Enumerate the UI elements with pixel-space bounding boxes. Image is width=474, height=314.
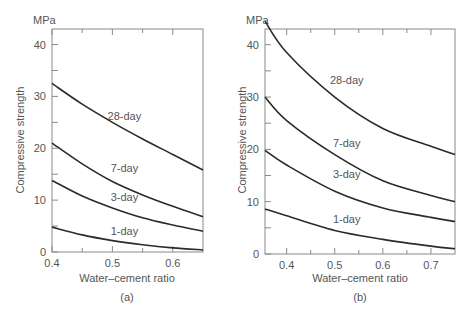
y-tick-label: 40	[34, 39, 46, 51]
y-tick-label: 10	[247, 196, 259, 208]
curve-28-day	[265, 21, 455, 154]
curve-7-day	[52, 143, 203, 217]
plot-frame	[52, 29, 203, 252]
panel-b: MPa Compressive strength Water–cement ra…	[236, 14, 455, 303]
y-tick-label: 40	[247, 39, 259, 51]
panel-a: MPa Compressive strength Water–cement ra…	[14, 14, 203, 303]
y-tick-label: 0	[253, 248, 259, 260]
y-axis-label: Compressive strength	[14, 87, 26, 194]
curve-label: 7-day	[333, 137, 361, 149]
y-tick-label: 30	[247, 91, 259, 103]
curve-3-day	[265, 150, 455, 221]
figure: MPa Compressive strength Water–cement ra…	[0, 0, 474, 314]
unit-label: MPa	[33, 14, 57, 26]
y-tick-label: 10	[34, 194, 46, 206]
panel-caption: (b)	[353, 291, 366, 303]
curve-label: 3-day	[111, 191, 139, 203]
panel-caption: (a)	[120, 291, 133, 303]
unit-label: MPa	[246, 14, 270, 26]
x-tick-label: 0.5	[327, 259, 342, 271]
curves: 28-day7-day3-day1-day	[265, 21, 455, 249]
curve-28-day	[52, 83, 203, 170]
x-tick-label: 0.6	[165, 257, 180, 269]
curve-label: 3-day	[333, 168, 361, 180]
curve-label: 28-day	[330, 74, 364, 86]
x-axis-label: Water–cement ratio	[79, 272, 175, 284]
x-axis-label: Water–cement ratio	[312, 272, 408, 284]
curve-label: 28-day	[108, 110, 142, 122]
curve-label: 7-day	[111, 162, 139, 174]
y-tick-label: 20	[34, 142, 46, 154]
x-tick-label: 0.4	[279, 259, 294, 271]
x-tick-label: 0.5	[105, 257, 120, 269]
axes: 0102030400.40.50.60.7	[247, 29, 455, 271]
curves: 28-day7-day3-day1-day	[52, 83, 203, 249]
y-tick-label: 30	[34, 90, 46, 102]
chart-canvas: MPa Compressive strength Water–cement ra…	[0, 0, 474, 314]
y-tick-label: 20	[247, 143, 259, 155]
curve-label: 1-day	[111, 225, 139, 237]
curve-7-day	[265, 97, 455, 202]
curve-label: 1-day	[333, 213, 361, 225]
x-tick-label: 0.7	[423, 259, 438, 271]
x-tick-label: 0.4	[44, 257, 59, 269]
x-tick-label: 0.6	[375, 259, 390, 271]
